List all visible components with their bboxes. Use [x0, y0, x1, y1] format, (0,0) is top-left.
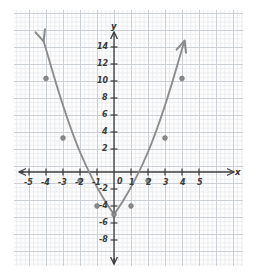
x-axis-label: x [235, 168, 240, 177]
data-point [163, 136, 168, 141]
y-axis-label: y [111, 22, 117, 31]
y-tick-label-8: 8 [102, 94, 108, 102]
x-tick-label--2: -2 [75, 179, 84, 187]
x-tick-label-5: 5 [197, 179, 203, 187]
parabola-right-branch [114, 41, 185, 215]
data-point [61, 136, 66, 141]
x-tick-label-0: 0 [117, 178, 123, 186]
data-point [129, 204, 134, 209]
y-tick-label-14: 14 [97, 43, 108, 51]
y-tick-label--2: -2 [99, 185, 108, 193]
y-tick-label-4: 4 [102, 128, 108, 136]
data-point [44, 76, 49, 81]
x-tick-label-3: 3 [163, 179, 169, 187]
y-tick-label-6: 6 [102, 111, 108, 119]
y-tick-label-10: 10 [97, 77, 108, 85]
x-tick-label--4: -4 [41, 179, 50, 187]
y-tick-label--6: -6 [99, 219, 108, 227]
graph-figure: -5 -4 -3 -2 -1 0 1 2 3 4 5 14 12 10 8 6 … [0, 0, 256, 277]
x-tick-label-2: 2 [146, 179, 152, 187]
x-tick-label-1: 1 [129, 179, 135, 187]
y-tick-label-12: 12 [97, 60, 108, 68]
y-tick-label-2: 2 [102, 145, 108, 153]
data-point [112, 212, 117, 217]
y-tick-label--4: -4 [99, 202, 108, 210]
plot-canvas [0, 0, 256, 277]
x-tick-label--3: -3 [58, 179, 67, 187]
x-tick-label-4: 4 [180, 179, 186, 187]
data-point [180, 76, 185, 81]
x-tick-label--5: -5 [24, 179, 33, 187]
y-tick-label--8: -8 [99, 236, 108, 244]
